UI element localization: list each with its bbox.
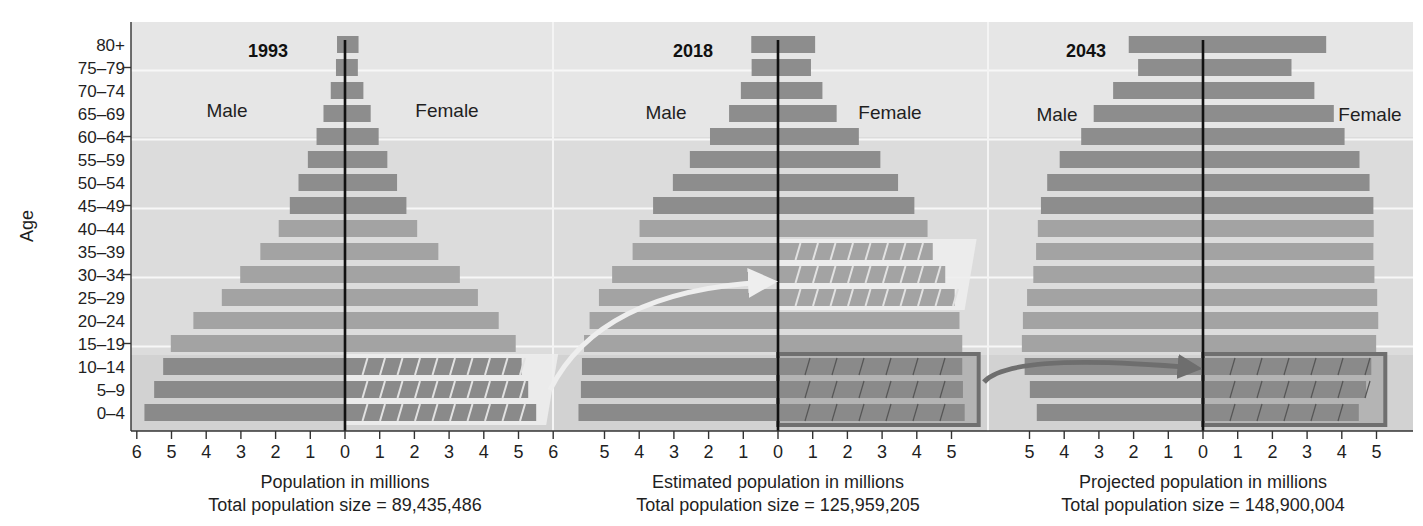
x-tick-label: 1 [1163, 442, 1173, 462]
age-label: 70–74 [78, 82, 125, 101]
female-label: Female [415, 100, 478, 121]
bar-male [163, 358, 345, 375]
bar-male [729, 105, 778, 122]
total-population-label: Total population size = 125,959,205 [636, 495, 920, 515]
bar-female [778, 105, 837, 122]
bar-female [1203, 36, 1326, 53]
bar-female [345, 312, 499, 329]
panel-2043: 2043MaleFemale54321012345Projected popul… [988, 36, 1413, 515]
age-label: 0–4 [97, 404, 125, 423]
population-pyramid-chart: 1993MaleFemale6543210123456Population in… [0, 0, 1423, 526]
bar-male [581, 381, 778, 398]
male-label: Male [645, 102, 686, 123]
x-tick-label: 5 [513, 442, 523, 462]
x-axis-title: Estimated population in millions [652, 472, 904, 492]
bar-female [778, 128, 859, 145]
x-tick-label: 1 [738, 442, 748, 462]
bar-male [640, 220, 778, 237]
bar-male [673, 174, 778, 191]
bar-female [778, 335, 962, 352]
male-label: Male [1036, 104, 1077, 125]
bar-female [1203, 220, 1374, 237]
bar-male [336, 59, 345, 76]
bar-female [1203, 82, 1314, 99]
bar-female [778, 82, 822, 99]
bar-female [1203, 128, 1345, 145]
bar-female [778, 36, 815, 53]
x-axis-title: Projected population in millions [1079, 472, 1327, 492]
bar-female [778, 151, 880, 168]
bar-male [1027, 289, 1203, 306]
bar-male [1037, 404, 1203, 421]
bar-female [345, 266, 460, 283]
total-population-label: Total population size = 89,435,486 [208, 495, 482, 515]
age-label: 50–54 [78, 174, 125, 193]
x-tick-label: 4 [1059, 442, 1069, 462]
bar-female [345, 197, 406, 214]
bar-male [584, 335, 778, 352]
bar-female [778, 312, 959, 329]
bar-male [279, 220, 345, 237]
x-tick-label: 3 [1302, 442, 1312, 462]
bar-male [193, 312, 345, 329]
panel-year-label: 2018 [673, 41, 713, 61]
x-tick-label: 3 [877, 442, 887, 462]
x-tick-label: 5 [946, 442, 956, 462]
x-tick-label: 5 [1371, 442, 1381, 462]
x-tick-label: 4 [912, 442, 922, 462]
x-tick-label: 5 [599, 442, 609, 462]
age-label: 45–49 [78, 197, 125, 216]
x-tick-label: 3 [669, 442, 679, 462]
age-label: 10–14 [78, 358, 125, 377]
age-label: 65–69 [78, 105, 125, 124]
x-tick-label: 3 [236, 442, 246, 462]
bar-female [345, 220, 417, 237]
bar-male [1033, 266, 1203, 283]
bar-female [1203, 266, 1374, 283]
y-axis-title: Age [17, 210, 37, 242]
bar-male [1030, 381, 1203, 398]
bar-male [582, 358, 778, 375]
bar-male [710, 128, 778, 145]
age-label: 35–39 [78, 243, 125, 262]
bar-male [653, 197, 778, 214]
bar-female [778, 220, 928, 237]
bar-male [331, 82, 345, 99]
x-tick-label: 1 [375, 442, 385, 462]
x-tick-label: 3 [444, 442, 454, 462]
female-label: Female [858, 102, 921, 123]
bar-male [1041, 197, 1203, 214]
x-tick-label: 5 [1024, 442, 1034, 462]
x-tick-label: 2 [271, 442, 281, 462]
bar-male [260, 243, 345, 260]
bar-female [345, 335, 516, 352]
x-tick-label: 4 [1337, 442, 1347, 462]
bar-female [1203, 243, 1373, 260]
bar-male [323, 105, 345, 122]
bar-female [1203, 335, 1376, 352]
bar-female [1203, 312, 1378, 329]
bar-male [1023, 312, 1203, 329]
age-label: 75–79 [78, 59, 125, 78]
x-tick-label: 5 [166, 442, 176, 462]
age-label: 20–24 [78, 312, 125, 331]
bar-female [345, 151, 387, 168]
x-tick-label: 3 [1094, 442, 1104, 462]
bar-female [345, 59, 358, 76]
bar-male [741, 82, 778, 99]
panel-year-label: 2043 [1066, 41, 1106, 61]
x-tick-label: 2 [842, 442, 852, 462]
bar-female [1203, 105, 1334, 122]
bar-male [308, 151, 345, 168]
x-tick-label: 4 [634, 442, 644, 462]
bar-female [345, 243, 438, 260]
bar-male [222, 289, 345, 306]
bar-male [690, 151, 778, 168]
bar-male [1129, 36, 1203, 53]
bar-male [1036, 243, 1203, 260]
bar-male [154, 381, 345, 398]
bar-female [1203, 289, 1377, 306]
bar-female [778, 59, 811, 76]
x-tick-label: 2 [704, 442, 714, 462]
age-label: 5–9 [97, 381, 125, 400]
